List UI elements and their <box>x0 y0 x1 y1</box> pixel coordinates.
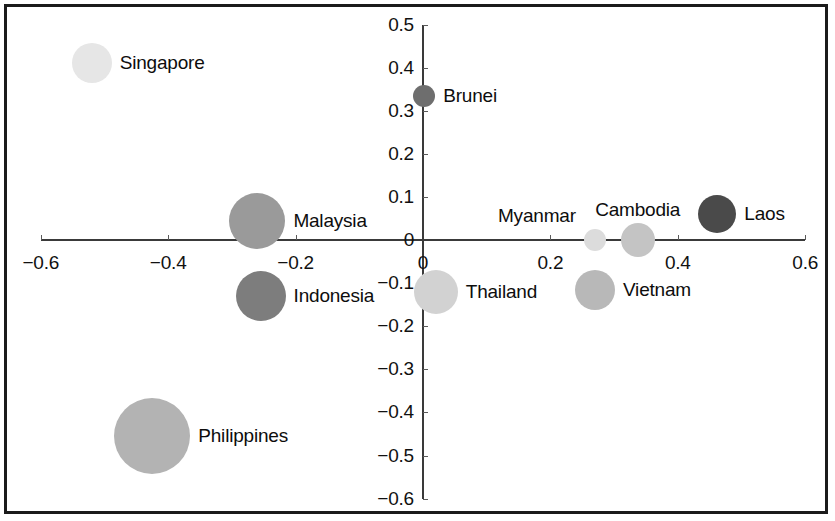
point-label-malaysia: Malaysia <box>293 210 366 232</box>
x-axis-tick <box>550 235 551 240</box>
bubble-chart-figure: −0.6−0.4−0.200.20.40.60.50.40.30.20.10−0… <box>0 0 835 521</box>
point-label-laos: Laos <box>744 203 784 225</box>
plot-area: −0.6−0.4−0.200.20.40.60.50.40.30.20.10−0… <box>0 0 835 521</box>
x-axis-tick <box>296 235 297 240</box>
y-axis-tick <box>423 154 428 155</box>
bubble-malaysia[interactable] <box>229 193 285 249</box>
bubble-singapore[interactable] <box>72 43 112 83</box>
bubble-myanmar[interactable] <box>584 229 606 251</box>
x-axis-tick-label: 0.4 <box>665 252 691 274</box>
x-axis-tick <box>41 235 42 240</box>
x-axis-tick-label: 0.2 <box>537 252 563 274</box>
x-axis-tick-label: 0.6 <box>792 252 818 274</box>
y-axis-tick <box>423 412 428 413</box>
point-label-thailand: Thailand <box>466 281 537 303</box>
y-axis-tick-label: −0.2 <box>377 315 414 337</box>
y-axis-tick-label: −0.5 <box>377 445 414 467</box>
x-axis-tick <box>678 235 679 240</box>
point-label-myanmar: Myanmar <box>498 205 576 227</box>
y-axis-tick-label: −0.4 <box>377 401 414 423</box>
y-axis-tick <box>423 111 428 112</box>
bubble-philippines[interactable] <box>114 398 190 474</box>
bubble-vietnam[interactable] <box>575 270 615 310</box>
bubble-thailand[interactable] <box>414 270 458 314</box>
y-axis-tick-label: 0 <box>404 229 414 251</box>
y-axis-tick <box>423 197 428 198</box>
y-axis-tick-label: −0.6 <box>377 488 414 510</box>
y-axis-tick-label: −0.1 <box>377 272 414 294</box>
y-axis-tick <box>423 456 428 457</box>
y-axis-tick-label: 0.5 <box>388 14 414 36</box>
x-axis-tick <box>168 235 169 240</box>
y-axis-tick <box>423 326 428 327</box>
y-axis-tick-label: 0.2 <box>388 143 414 165</box>
point-label-singapore: Singapore <box>120 52 205 74</box>
y-axis-tick-label: 0.4 <box>388 57 414 79</box>
y-axis-tick <box>423 369 428 370</box>
x-axis-tick-label: −0.2 <box>277 252 314 274</box>
bubble-brunei[interactable] <box>413 85 435 107</box>
point-label-brunei: Brunei <box>443 85 497 107</box>
bubble-laos[interactable] <box>698 195 736 233</box>
x-axis-tick <box>805 235 806 240</box>
y-axis-tick <box>423 68 428 69</box>
point-label-vietnam: Vietnam <box>623 279 691 301</box>
y-axis-tick-label: 0.1 <box>388 186 414 208</box>
x-axis-tick-label: −0.6 <box>22 252 59 274</box>
y-axis-tick-label: 0.3 <box>388 100 414 122</box>
bubble-cambodia[interactable] <box>621 223 655 257</box>
x-axis-tick-label: −0.4 <box>150 252 187 274</box>
point-label-indonesia: Indonesia <box>294 285 375 307</box>
bubble-indonesia[interactable] <box>236 271 286 321</box>
point-label-philippines: Philippines <box>198 425 288 447</box>
y-axis-tick <box>423 25 428 26</box>
y-axis-tick-label: −0.3 <box>377 358 414 380</box>
point-label-cambodia: Cambodia <box>595 199 680 221</box>
y-axis-tick <box>423 499 428 500</box>
